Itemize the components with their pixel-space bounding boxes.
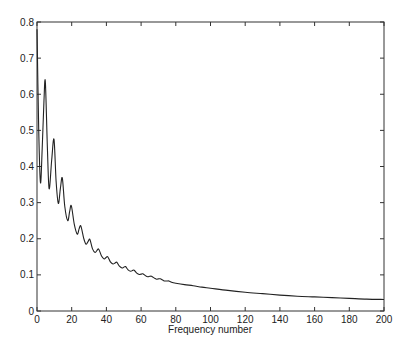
y-tick-label: 0.2	[20, 233, 34, 244]
y-tick-label: 0.7	[20, 53, 34, 64]
x-tick-label: 20	[66, 314, 78, 325]
plot-area	[37, 22, 384, 311]
x-axis-label: Frequency number	[168, 324, 253, 335]
x-tick-label: 40	[101, 314, 113, 325]
y-tick-label: 0.6	[20, 89, 34, 100]
y-tick-label: 0.3	[20, 197, 34, 208]
y-tick-label: 0	[28, 306, 34, 317]
y-tick-label: 0.5	[20, 125, 34, 136]
y-tick-label: 0.8	[20, 17, 34, 28]
y-tick-labels: 00.10.20.30.40.50.60.70.8	[20, 17, 34, 317]
y-tick-label: 0.4	[20, 161, 34, 172]
line-chart: 020406080100120140160180200 00.10.20.30.…	[0, 0, 410, 345]
x-tick-label: 200	[376, 314, 393, 325]
x-tick-label: 160	[306, 314, 323, 325]
x-tick-label: 140	[272, 314, 289, 325]
y-tick-label: 0.1	[20, 269, 34, 280]
x-tick-label: 60	[136, 314, 148, 325]
x-tick-label: 180	[341, 314, 358, 325]
x-tick-label: 0	[34, 314, 40, 325]
